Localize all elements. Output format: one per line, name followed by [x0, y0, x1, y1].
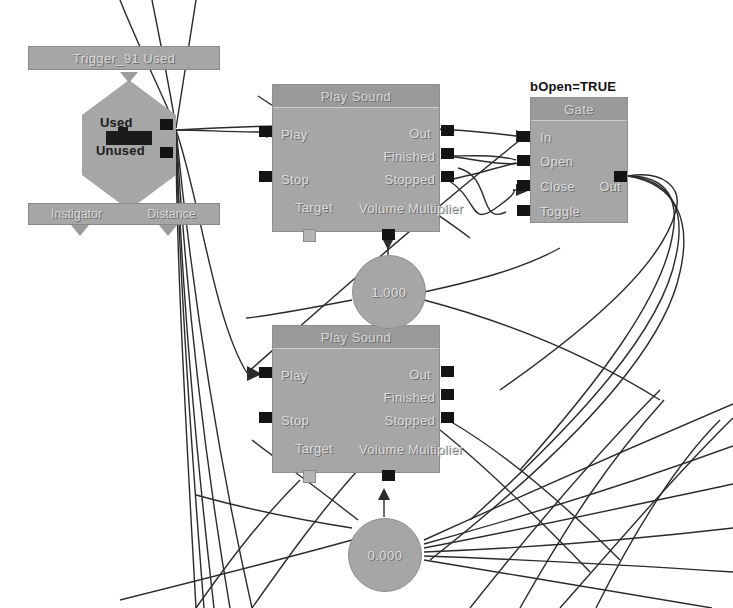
node-play-sound-2-var-volume-label: Volume Multiplier — [359, 441, 435, 458]
node-gate-input-open-label: Open — [540, 154, 573, 169]
node-play-sound-2-var-target-label: Target — [295, 441, 333, 456]
gate-comment: bOpen=TRUE — [530, 79, 616, 94]
event-variable-distance-arrow-icon — [159, 225, 177, 236]
node-play-sound-2-output-out-label: Out — [409, 367, 431, 382]
event-output-unused-label: Unused — [96, 143, 145, 158]
node-play-sound-2[interactable]: Play Sound Play Stop Out Finished Stoppe… — [272, 325, 440, 473]
node-play-sound-2-var-volume-pin[interactable] — [382, 470, 395, 481]
variable-float-1[interactable]: 1.000 — [352, 255, 426, 329]
event-title-bar[interactable]: Trigger_91 Used — [28, 46, 220, 70]
node-gate-title: Gate — [564, 102, 594, 117]
node-play-sound-1-var-target-label: Target — [295, 200, 333, 215]
variable-float-2[interactable]: 0.000 — [348, 518, 422, 592]
node-play-sound-2-var-volume-text: Volume Multiplier — [359, 442, 463, 457]
node-gate-body: In Open Close Toggle Out — [531, 121, 627, 222]
event-variable-distance: Distance — [124, 207, 219, 221]
node-play-sound-2-header: Play Sound — [273, 326, 439, 349]
event-glyph-icon-stem — [118, 127, 128, 133]
event-output-unused-pin[interactable] — [160, 147, 173, 158]
node-play-sound-2-input-stop-pin[interactable] — [259, 412, 272, 423]
node-play-sound-1-output-stopped-pin[interactable] — [441, 171, 454, 182]
node-play-sound-1-var-volume-label: Volume Multiplier — [359, 200, 435, 217]
node-gate[interactable]: Gate In Open Close Toggle Out — [530, 97, 628, 223]
node-gate-input-in-pin[interactable] — [517, 131, 530, 142]
node-play-sound-1-output-stopped-label: Stopped — [384, 172, 435, 187]
node-gate-input-toggle-pin[interactable] — [517, 205, 530, 216]
node-play-sound-1-input-play-pin[interactable] — [259, 126, 272, 137]
node-play-sound-1-output-finished-label: Finished — [383, 149, 435, 164]
node-play-sound-1-output-out-label: Out — [409, 126, 431, 141]
kismet-graph-canvas[interactable]: Trigger_91 Used Used Unused Instigator D… — [0, 0, 733, 608]
node-play-sound-1-input-play-label: Play — [281, 127, 308, 142]
node-play-sound-1-header: Play Sound — [273, 85, 439, 108]
node-play-sound-2-output-out-pin[interactable] — [441, 366, 454, 377]
node-play-sound-1-input-stop-label: Stop — [281, 172, 309, 187]
node-gate-input-close-label: Close — [540, 179, 575, 194]
node-gate-header: Gate — [531, 98, 627, 121]
node-play-sound-2-body: Play Stop Out Finished Stopped Target Vo… — [273, 349, 439, 472]
event-title: Trigger_91 Used — [73, 51, 175, 66]
node-gate-input-close-pin[interactable] — [517, 180, 530, 191]
node-play-sound-1-var-target-pin[interactable] — [303, 229, 316, 242]
node-play-sound-2-output-stopped-pin[interactable] — [441, 412, 454, 423]
variable-float-2-value: 0.000 — [367, 548, 402, 563]
event-output-used-pin[interactable] — [160, 119, 173, 130]
event-output-arrow-icon — [120, 72, 138, 83]
node-gate-input-in-label: In — [540, 130, 551, 145]
node-play-sound-1-input-stop-pin[interactable] — [259, 171, 272, 182]
node-play-sound-2-input-play-label: Play — [281, 368, 308, 383]
node-play-sound-1-body: Play Stop Out Finished Stopped Target Vo… — [273, 108, 439, 231]
node-gate-input-open-pin[interactable] — [517, 155, 530, 166]
variable-float-1-value: 1.000 — [371, 285, 406, 300]
node-play-sound-1-output-finished-pin[interactable] — [441, 148, 454, 159]
node-play-sound-2-output-finished-label: Finished — [383, 390, 435, 405]
node-play-sound-2-input-play-pin[interactable] — [259, 367, 272, 378]
node-play-sound-2-var-target-pin[interactable] — [303, 470, 316, 483]
event-variable-bar[interactable]: Instigator Distance — [28, 203, 220, 225]
node-play-sound-1-var-volume-text: Volume Multiplier — [359, 201, 463, 216]
node-play-sound-2-output-stopped-label: Stopped — [384, 413, 435, 428]
event-variable-instigator: Instigator — [29, 207, 124, 221]
node-play-sound-2-title: Play Sound — [321, 330, 392, 345]
event-glyph-icon — [106, 131, 152, 145]
node-gate-output-out-pin[interactable] — [614, 171, 627, 182]
node-play-sound-1[interactable]: Play Sound Play Stop Out Finished Stoppe… — [272, 84, 440, 232]
event-variable-instigator-arrow-icon — [71, 225, 89, 236]
node-gate-input-toggle-label: Toggle — [540, 204, 580, 219]
node-play-sound-1-output-out-pin[interactable] — [441, 125, 454, 136]
node-play-sound-2-output-finished-pin[interactable] — [441, 389, 454, 400]
node-play-sound-1-title: Play Sound — [321, 89, 392, 104]
node-play-sound-2-input-stop-label: Stop — [281, 413, 309, 428]
node-play-sound-1-var-volume-pin[interactable] — [382, 229, 395, 240]
